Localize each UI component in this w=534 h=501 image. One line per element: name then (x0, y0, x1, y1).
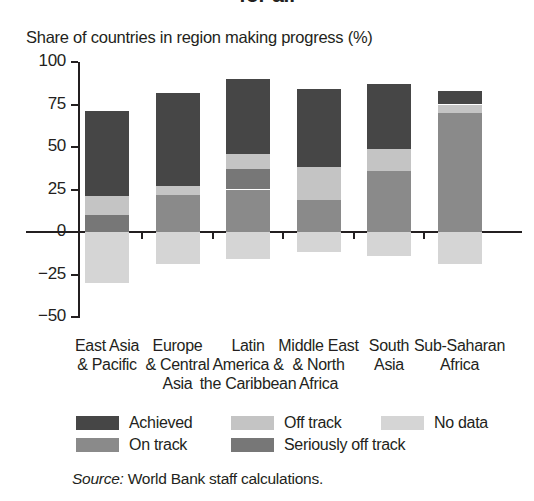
x-axis-minor-tick (212, 233, 214, 239)
bar-segment (438, 105, 482, 114)
bar-segment (226, 169, 270, 189)
x-axis-minor-tick (141, 233, 143, 239)
y-axis-tick-label: 50 (6, 136, 66, 156)
bar-segment-no-data (297, 232, 341, 252)
legend-label: On track (129, 436, 187, 454)
bar-segment-no-data (156, 232, 200, 264)
bar-segment (156, 195, 200, 232)
y-axis-tick (71, 189, 78, 191)
legend-item: Off track (231, 414, 341, 432)
bar-segment (85, 196, 129, 215)
source-text: World Bank staff calculations. (124, 470, 323, 487)
x-axis-labels: East Asia& PacificEurope& CentralAsiaLat… (0, 336, 534, 408)
y-axis-tick-label: 0 (6, 221, 66, 241)
clipped-page-heading-text: for all (0, 0, 534, 7)
bar-stack (367, 62, 411, 318)
y-axis-tick-label: 25 (6, 179, 66, 199)
legend-label: Achieved (129, 414, 192, 432)
x-axis-minor-tick (423, 233, 425, 239)
bar-stack (85, 62, 129, 318)
legend-label: Seriously off track (284, 436, 405, 454)
legend-swatch (231, 438, 274, 452)
bar-segment-no-data (438, 232, 482, 264)
bar-segment (226, 154, 270, 169)
y-axis-tick (71, 146, 78, 148)
y-axis-line (78, 62, 80, 318)
y-axis-tick-label: 100 (6, 51, 66, 71)
legend-swatch (76, 416, 119, 430)
bar-segment-no-data (367, 232, 411, 256)
bar-segment (297, 89, 341, 167)
legend-item: Achieved (76, 414, 192, 432)
legend-swatch (231, 416, 274, 430)
x-axis-label-line: Africa (406, 355, 514, 374)
bar-segment (367, 171, 411, 232)
legend-label: Off track (284, 414, 341, 432)
bar-segment (367, 149, 411, 171)
bar-segment (438, 91, 482, 105)
y-axis-tick (71, 61, 78, 63)
y-axis-tick (71, 274, 78, 276)
bar-segment-no-data (226, 232, 270, 259)
bar-segment (297, 200, 341, 232)
bar-segment (226, 79, 270, 154)
source-label: Source: (72, 470, 124, 487)
bar-stack (438, 62, 482, 318)
bar-stack (297, 62, 341, 318)
bar-segment (156, 186, 200, 195)
chart-axis-title: Share of countries in region making prog… (26, 28, 373, 47)
legend-item: No data (381, 414, 488, 432)
bar-segment (226, 190, 270, 233)
clipped-page-heading: for all (0, 0, 534, 16)
x-axis-label: Sub-SaharanAfrica (406, 336, 514, 374)
bar-segment (438, 113, 482, 232)
chart-plot-area: 1007550250−25−50 (0, 62, 534, 330)
bar-segment (85, 111, 129, 196)
y-axis-tick (71, 316, 78, 318)
y-axis-tick-label: 75 (6, 94, 66, 114)
bar-stack (156, 62, 200, 318)
bar-segment-no-data (85, 232, 129, 283)
x-axis-label-line: Africa (265, 374, 373, 393)
x-axis-label-line: Sub-Saharan (406, 336, 514, 355)
y-axis-tick (71, 104, 78, 106)
bar-stack (226, 62, 270, 318)
y-axis-tick (71, 231, 78, 233)
legend-label: No data (434, 414, 488, 432)
bar-segment (367, 84, 411, 149)
legend-swatch (381, 416, 424, 430)
x-axis-minor-tick (353, 233, 355, 239)
legend-swatch (76, 438, 119, 452)
legend-item: Seriously off track (231, 436, 405, 454)
chart-legend: AchievedOn trackOff trackSeriously off t… (0, 414, 534, 456)
y-axis-tick-label: −25 (6, 264, 66, 284)
x-axis-minor-tick (282, 233, 284, 239)
source-note: Source: World Bank staff calculations. (72, 470, 323, 488)
bar-segment (156, 93, 200, 187)
y-axis-tick-label: −50 (6, 306, 66, 326)
bar-segment (297, 167, 341, 199)
legend-item: On track (76, 436, 187, 454)
bar-segment (85, 215, 129, 232)
